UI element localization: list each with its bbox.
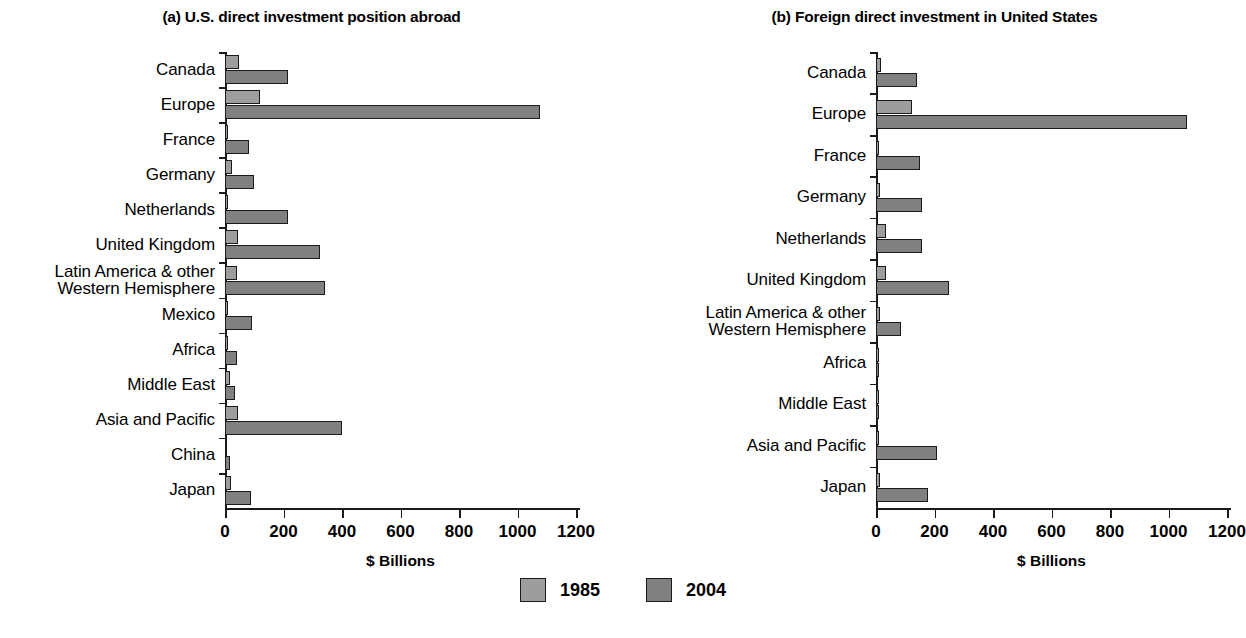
bar-1985	[876, 141, 879, 155]
x-axis-tick-label: 200	[269, 522, 297, 542]
y-axis-tick	[870, 384, 877, 386]
legend-swatch-2004	[646, 578, 672, 602]
bar-2004	[225, 421, 342, 435]
bar-1985	[225, 195, 228, 209]
category-label: China	[171, 447, 215, 465]
bar-1985	[876, 100, 912, 114]
x-axis-tick-label: 200	[920, 522, 948, 542]
figure-root: (a) U.S. direct investment position abro…	[0, 0, 1246, 638]
category-label: Europe	[161, 96, 215, 114]
bar-1985	[225, 230, 238, 244]
bar-2004	[876, 115, 1187, 129]
y-axis-tick	[870, 218, 877, 220]
bar-2004	[876, 363, 879, 377]
bar-2004	[876, 156, 920, 170]
legend-item-2004: 2004	[646, 578, 726, 602]
y-axis-tick	[870, 425, 877, 427]
category-label: Asia and Pacific	[96, 411, 215, 429]
x-axis-tick	[284, 510, 286, 518]
category-label: Mexico	[162, 306, 215, 324]
y-axis-tick	[870, 467, 877, 469]
bar-1985	[225, 55, 239, 69]
bar-2004	[225, 386, 235, 400]
category-label: Netherlands	[775, 230, 866, 248]
x-axis-tick-label: 1200	[1208, 522, 1246, 542]
chart-panel-a: (a) U.S. direct investment position abro…	[0, 0, 623, 570]
y-axis-tick	[870, 176, 877, 178]
category-label: Europe	[812, 105, 866, 123]
x-axis-tick	[518, 510, 520, 518]
bar-1985	[225, 476, 231, 490]
y-axis-tick	[870, 135, 877, 137]
category-label: Germany	[146, 166, 215, 184]
bar-1985	[225, 160, 232, 174]
category-label: Africa	[823, 354, 866, 372]
y-axis-tick	[219, 227, 226, 229]
x-axis-tick	[401, 510, 403, 518]
bar-2004	[225, 70, 288, 84]
category-label: United Kingdom	[95, 236, 215, 254]
y-axis-tick	[219, 298, 226, 300]
y-axis-tick	[219, 262, 226, 264]
y-axis-tick	[870, 301, 877, 303]
x-axis-tick	[993, 510, 995, 518]
bar-1985	[225, 371, 230, 385]
x-axis-tick	[225, 510, 227, 518]
bar-1985	[876, 224, 886, 238]
x-axis-tick	[1110, 510, 1112, 518]
bar-2004	[225, 140, 249, 154]
bar-1985	[876, 307, 880, 321]
bar-2004	[225, 105, 540, 119]
chart-panel-b: (b) Foreign direct investment in United …	[623, 0, 1246, 570]
y-axis-tick	[219, 122, 226, 124]
bar-2004	[876, 446, 937, 460]
category-label: Africa	[172, 341, 215, 359]
x-axis-tick-label: 800	[1096, 522, 1124, 542]
bar-1985	[876, 58, 881, 72]
bar-2004	[876, 198, 922, 212]
y-axis-tick	[870, 52, 877, 54]
legend-label-1985: 1985	[560, 580, 600, 601]
bar-1985	[876, 183, 880, 197]
y-axis-tick	[219, 52, 226, 54]
x-axis-tick-label: 1000	[499, 522, 537, 542]
x-axis-tick	[1227, 510, 1229, 518]
x-axis-tick	[935, 510, 937, 518]
x-axis-tick-label: 600	[386, 522, 414, 542]
x-axis-line	[225, 508, 580, 510]
x-axis-tick-label: 800	[445, 522, 473, 542]
x-axis-title: $ Billions	[366, 552, 435, 570]
y-axis-tick	[870, 342, 877, 344]
x-axis-tick-label: 400	[979, 522, 1007, 542]
bar-1985	[225, 301, 228, 315]
category-label: Canada	[156, 61, 215, 79]
x-axis-title: $ Billions	[1017, 552, 1086, 570]
x-axis-tick	[1052, 510, 1054, 518]
category-label: United Kingdom	[746, 271, 866, 289]
category-label: Canada	[807, 64, 866, 82]
bar-2004	[876, 281, 949, 295]
bar-1985	[225, 336, 228, 350]
y-axis-tick	[219, 192, 226, 194]
category-label: Middle East	[778, 396, 866, 414]
panel-b-plot-area: 020040060080010001200$ BillionsCanadaEur…	[623, 52, 1246, 512]
category-label: France	[163, 131, 215, 149]
panel-a-title: (a) U.S. direct investment position abro…	[0, 8, 623, 26]
bar-1985	[225, 406, 238, 420]
x-axis-tick	[576, 510, 578, 518]
bar-1985	[876, 266, 886, 280]
bar-1985	[876, 431, 879, 445]
category-label: Germany	[797, 188, 866, 206]
category-label: France	[814, 147, 866, 165]
legend-swatch-1985	[520, 578, 546, 602]
x-axis-tick-label: 400	[328, 522, 356, 542]
x-axis-line	[876, 508, 1231, 510]
bar-2004	[876, 239, 922, 253]
y-axis-tick	[219, 368, 226, 370]
x-axis-tick-label: 600	[1037, 522, 1065, 542]
bar-2004	[876, 405, 879, 419]
bar-2004	[225, 175, 254, 189]
x-axis-tick-label: 0	[871, 522, 880, 542]
y-axis-tick	[219, 403, 226, 405]
bar-2004	[225, 456, 230, 470]
